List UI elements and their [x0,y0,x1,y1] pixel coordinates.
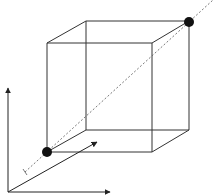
coordinate-axes [8,88,110,192]
diagonal-end-tick [23,169,27,175]
cube-back-face [86,21,189,130]
corner-point-far [184,17,194,27]
cube-connecting-edges [47,21,189,152]
corner-point-near [42,147,52,157]
space-diagonal-line [25,0,213,172]
depth-axis-arrow [8,142,97,192]
cube-front-face [47,43,152,152]
cube-diagram [0,0,213,196]
